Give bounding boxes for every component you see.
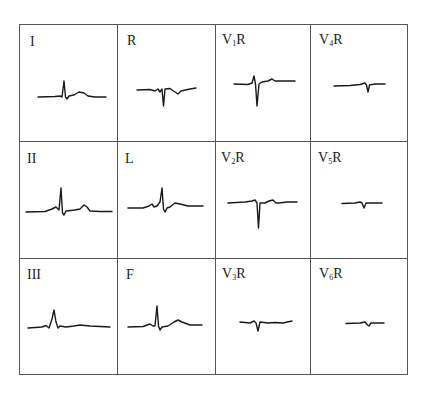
ecg-lead-figure: I R V1R V4R II L V2R V5R III F V3R V6R: [0, 0, 430, 399]
trace-R: [137, 88, 196, 106]
trace-V5R: [342, 202, 382, 208]
trace-F: [128, 306, 202, 330]
trace-V1R: [234, 76, 295, 106]
trace-V6R: [346, 322, 384, 326]
trace-V2R: [228, 200, 297, 228]
trace-L: [128, 188, 203, 212]
ecg-traces: [0, 0, 430, 399]
trace-II: [26, 188, 112, 215]
trace-III: [28, 310, 110, 328]
trace-V4R: [334, 83, 385, 92]
trace-V3R: [240, 321, 292, 331]
trace-I: [38, 81, 106, 99]
